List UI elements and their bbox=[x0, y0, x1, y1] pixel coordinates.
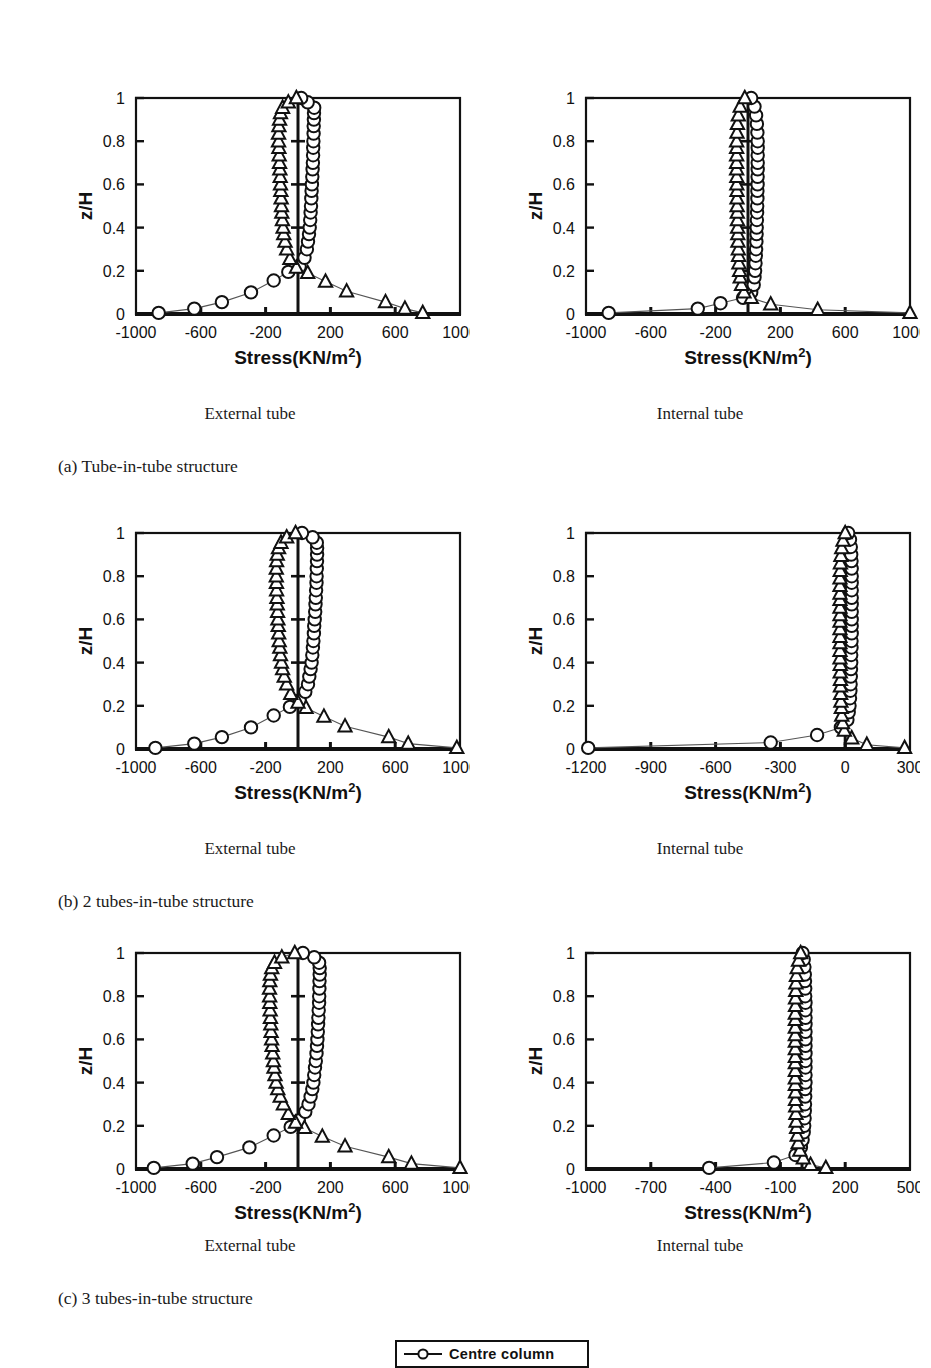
y-tick-label: 0.2 bbox=[103, 263, 125, 280]
y-axis-title: z/H bbox=[525, 192, 546, 221]
x-tick-label: -200 bbox=[250, 1179, 282, 1196]
y-tick-label: 0.4 bbox=[103, 1075, 125, 1092]
chart-svg: -1000-700-400-10020050000.20.40.60.81Str… bbox=[520, 935, 920, 1245]
data-point-triangle bbox=[860, 738, 873, 750]
data-point-circle bbox=[153, 307, 165, 319]
plot-c-external: -1000-600-200200600100000.20.40.60.81Str… bbox=[70, 935, 470, 1245]
section-caption-a: (a) Tube-in-tube structure bbox=[58, 456, 238, 477]
data-point-circle bbox=[714, 297, 726, 309]
plot-a-internal: -1000-600-200200600100000.20.40.60.81Str… bbox=[520, 80, 920, 390]
x-tick-label: -900 bbox=[635, 759, 667, 776]
y-tick-label: 0 bbox=[116, 1161, 125, 1178]
chart-svg: -1000-600-200200600100000.20.40.60.81Str… bbox=[70, 935, 470, 1245]
data-point-circle bbox=[245, 286, 257, 298]
y-axis-title: z/H bbox=[75, 192, 96, 221]
data-point-triangle bbox=[903, 306, 916, 318]
y-tick-label: 0.6 bbox=[103, 611, 125, 628]
plot-b-internal: -1200-900-600-300030000.20.40.60.81Stres… bbox=[520, 515, 920, 825]
data-point-circle bbox=[211, 1151, 223, 1163]
data-point-circle bbox=[603, 307, 615, 319]
data-point-circle bbox=[243, 1141, 255, 1153]
x-tick-label: -600 bbox=[185, 324, 217, 341]
x-tick-label: -200 bbox=[250, 759, 282, 776]
x-tick-label: -600 bbox=[185, 1179, 217, 1196]
y-tick-label: 0.8 bbox=[553, 568, 575, 585]
legend-label-centre-column: Centre column bbox=[449, 1346, 554, 1362]
data-point-circle bbox=[811, 729, 823, 741]
series-line bbox=[159, 98, 315, 313]
x-tick-label: 1000 bbox=[442, 324, 470, 341]
x-tick-label: 1000 bbox=[442, 759, 470, 776]
data-point-circle bbox=[148, 1162, 160, 1174]
caption-a-external: External tube bbox=[150, 404, 350, 424]
data-point-triangle bbox=[340, 284, 353, 296]
plot-frame bbox=[586, 953, 910, 1169]
x-tick-label: 300 bbox=[897, 759, 920, 776]
series-circle bbox=[153, 92, 321, 319]
y-tick-label: 0.8 bbox=[103, 133, 125, 150]
y-tick-label: 0.2 bbox=[103, 698, 125, 715]
x-tick-label: 200 bbox=[832, 1179, 859, 1196]
plot-frame bbox=[586, 533, 910, 749]
series-triangle bbox=[272, 91, 430, 318]
data-point-circle bbox=[268, 1129, 280, 1141]
data-point-circle bbox=[268, 274, 280, 286]
x-tick-label: -200 bbox=[700, 324, 732, 341]
data-point-circle bbox=[765, 736, 777, 748]
series-line bbox=[154, 953, 320, 1168]
series-triangle bbox=[833, 526, 911, 753]
series-circle bbox=[582, 527, 858, 754]
x-axis-title: Stress(KN/m2) bbox=[684, 345, 812, 368]
data-point-circle bbox=[582, 742, 594, 754]
caption-b-internal: Internal tube bbox=[600, 839, 800, 859]
y-tick-label: 0.6 bbox=[553, 1031, 575, 1048]
y-tick-label: 0.6 bbox=[103, 1031, 125, 1048]
y-axis-title: z/H bbox=[75, 1047, 96, 1076]
y-tick-label: 0 bbox=[566, 306, 575, 323]
x-tick-label: 0 bbox=[841, 759, 850, 776]
x-axis-title: Stress(KN/m2) bbox=[234, 1200, 362, 1223]
data-point-circle bbox=[268, 709, 280, 721]
y-tick-label: 0.8 bbox=[553, 133, 575, 150]
section-caption-c: (c) 3 tubes-in-tube structure bbox=[58, 1288, 253, 1309]
y-tick-label: 0 bbox=[566, 1161, 575, 1178]
chart-svg: -1000-600-200200600100000.20.40.60.81Str… bbox=[520, 80, 920, 390]
x-tick-label: 500 bbox=[897, 1179, 920, 1196]
y-tick-label: 0.8 bbox=[103, 988, 125, 1005]
y-tick-label: 1 bbox=[566, 90, 575, 107]
y-axis-title: z/H bbox=[525, 1047, 546, 1076]
x-tick-label: -600 bbox=[700, 759, 732, 776]
caption-c-external: External tube bbox=[150, 1236, 350, 1256]
plot-b-external: -1000-600-200200600100000.20.40.60.81Str… bbox=[70, 515, 470, 825]
x-tick-label: 200 bbox=[767, 324, 794, 341]
figure-root: -1000-600-200200600100000.20.40.60.81Str… bbox=[0, 0, 931, 1368]
x-tick-label: -1200 bbox=[566, 759, 607, 776]
x-tick-label: -400 bbox=[700, 1179, 732, 1196]
y-tick-label: 1 bbox=[566, 945, 575, 962]
data-point-triangle bbox=[316, 1129, 329, 1141]
data-point-triangle bbox=[338, 1139, 351, 1151]
data-point-circle bbox=[188, 302, 200, 314]
y-tick-label: 0.6 bbox=[103, 176, 125, 193]
x-tick-label: -1000 bbox=[116, 759, 157, 776]
caption-b-external: External tube bbox=[150, 839, 350, 859]
series-triangle bbox=[263, 946, 467, 1173]
y-tick-label: 0.4 bbox=[103, 220, 125, 237]
y-tick-label: 1 bbox=[116, 945, 125, 962]
x-tick-label: 200 bbox=[317, 759, 344, 776]
y-tick-label: 0.2 bbox=[553, 698, 575, 715]
y-tick-label: 0.2 bbox=[103, 1118, 125, 1135]
chart-svg: -1000-600-200200600100000.20.40.60.81Str… bbox=[70, 80, 470, 390]
y-tick-label: 0.8 bbox=[553, 988, 575, 1005]
x-tick-label: 200 bbox=[317, 1179, 344, 1196]
x-tick-label: -700 bbox=[635, 1179, 667, 1196]
x-tick-label: 200 bbox=[317, 324, 344, 341]
data-point-circle bbox=[187, 1157, 199, 1169]
data-point-triangle bbox=[338, 719, 351, 731]
y-tick-label: 0.8 bbox=[103, 568, 125, 585]
y-tick-label: 1 bbox=[116, 90, 125, 107]
data-point-circle bbox=[149, 742, 161, 754]
y-tick-label: 0 bbox=[566, 741, 575, 758]
y-tick-label: 1 bbox=[566, 525, 575, 542]
data-point-triangle bbox=[319, 274, 332, 286]
